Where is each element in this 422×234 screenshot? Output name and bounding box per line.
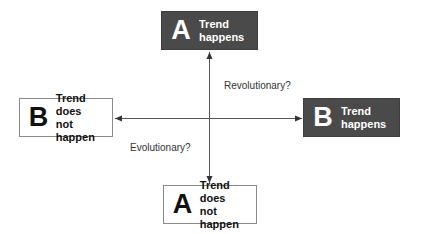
node-right-trend-happens: B Trend happens bbox=[303, 98, 400, 137]
node-label: Trend does not happen bbox=[200, 179, 256, 231]
node-label-line2: happens bbox=[199, 31, 244, 44]
node-label: Trend happens bbox=[199, 18, 244, 44]
node-label-line1: Trend bbox=[341, 105, 386, 118]
node-label-line2: not happen bbox=[56, 118, 112, 144]
caption-evolutionary: Evolutionary? bbox=[130, 142, 191, 153]
caption-revolutionary: Revolutionary? bbox=[224, 80, 291, 91]
scenario-letter: A bbox=[171, 191, 194, 218]
node-left-trend-does-not-happen: B Trend does not happen bbox=[19, 98, 113, 137]
node-label-line2: happens bbox=[341, 118, 386, 131]
node-label: Trend does not happen bbox=[56, 92, 112, 144]
node-label-line1: Trend does bbox=[56, 92, 112, 118]
scenario-letter: B bbox=[27, 104, 50, 131]
scenario-letter: B bbox=[311, 104, 335, 131]
node-label-line1: Trend does bbox=[200, 179, 256, 205]
node-bottom-trend-does-not-happen: A Trend does not happen bbox=[163, 185, 257, 224]
scenario-letter: A bbox=[169, 17, 193, 44]
node-top-trend-happens: A Trend happens bbox=[161, 11, 258, 50]
node-label-line2: not happen bbox=[200, 205, 256, 231]
node-label-line1: Trend bbox=[199, 18, 244, 31]
node-label: Trend happens bbox=[341, 105, 386, 131]
